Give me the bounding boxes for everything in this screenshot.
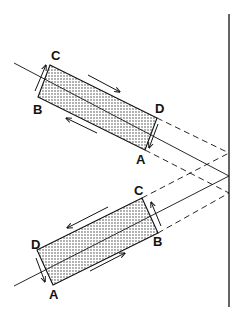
upper-dashed-edge-d [157,118,229,153]
upper-label-c: C [51,48,61,63]
upper-label-a: A [136,152,146,167]
lower-label-a: A [49,287,59,302]
upper-dashed-edge-a [145,150,229,193]
lower-dashed-edge-b [158,193,229,233]
lower-dashed-edge-c [142,153,229,198]
lower-slab: C B D A [31,153,229,302]
reflection-diagram: C D A B C B D A [0,0,241,317]
upper-label-b: B [33,102,42,117]
lower-label-c: C [134,183,144,198]
lower-label-d: D [31,237,40,252]
lower-label-b: B [153,234,162,249]
upper-slab: C D A B [33,48,229,193]
upper-label-d: D [155,101,164,116]
